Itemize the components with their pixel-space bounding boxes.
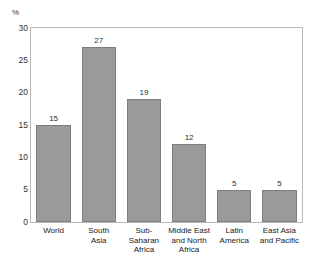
bar-value-label: 27: [76, 36, 121, 45]
x-axis-category-label: East Asia and Pacific: [254, 226, 305, 245]
bar-value-label: 15: [31, 114, 76, 123]
bar-slot: 15: [31, 28, 76, 222]
bars-group: 1527191255: [31, 28, 302, 222]
x-axis-category-label: Sub- Saharan Africa: [118, 226, 169, 255]
y-axis-tick-label: 30: [2, 24, 28, 33]
y-axis-tick-label: 5: [2, 185, 28, 194]
bar-value-label: 19: [121, 88, 166, 97]
bar-chart: % 051015202530 1527191255 WorldSouth Asi…: [0, 0, 310, 262]
y-axis-tick-label: 0: [2, 218, 28, 227]
x-axis-category-label: World: [28, 226, 79, 236]
y-axis-tick-label: 10: [2, 153, 28, 162]
y-axis-tick-label: 25: [2, 56, 28, 65]
x-axis-category-label: South Asia: [73, 226, 124, 245]
x-axis-category-label: Latin America: [209, 226, 260, 245]
bar-slot: 5: [257, 28, 302, 222]
bar: [82, 47, 116, 222]
x-axis-category-labels: WorldSouth AsiaSub- Saharan AfricaMiddle…: [31, 226, 302, 262]
x-axis-category-label: Middle East and North Africa: [164, 226, 215, 255]
bar-value-label: 12: [167, 133, 212, 142]
y-axis-tick-label: 20: [2, 88, 28, 97]
bar-slot: 19: [121, 28, 166, 222]
bar-slot: 5: [212, 28, 257, 222]
bar: [127, 99, 161, 222]
bar: [172, 144, 206, 222]
bar-value-label: 5: [257, 179, 302, 188]
bar-slot: 27: [76, 28, 121, 222]
bar: [36, 125, 70, 222]
bar: [262, 190, 296, 222]
y-axis-tick-label: 15: [2, 121, 28, 130]
bar: [217, 190, 251, 222]
bar-slot: 12: [167, 28, 212, 222]
bar-value-label: 5: [212, 179, 257, 188]
